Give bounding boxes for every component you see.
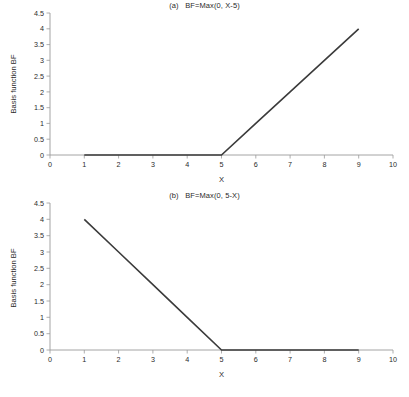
svg-text:1: 1 (82, 355, 86, 364)
chart-b-series-line (84, 219, 358, 350)
svg-text:3: 3 (40, 56, 44, 65)
svg-text:3.5: 3.5 (34, 231, 44, 240)
svg-text:2: 2 (40, 88, 44, 97)
svg-text:0: 0 (48, 355, 52, 364)
svg-text:4: 4 (185, 355, 189, 364)
chart-a-series-line (84, 29, 358, 155)
svg-text:1.5: 1.5 (34, 103, 44, 112)
svg-text:10: 10 (389, 160, 397, 169)
chart-b-plot: 0 0.5 1 1.5 2 2.5 3 3.5 4 4.5 (0, 190, 409, 380)
svg-text:7: 7 (288, 160, 292, 169)
svg-text:10: 10 (389, 355, 397, 364)
svg-text:6: 6 (254, 160, 258, 169)
svg-text:3: 3 (151, 355, 155, 364)
svg-text:3.5: 3.5 (34, 40, 44, 49)
chart-b-x-axis-label: X (219, 370, 224, 379)
svg-text:4: 4 (40, 215, 44, 224)
svg-text:3: 3 (40, 248, 44, 257)
svg-text:8: 8 (322, 355, 326, 364)
chart-b-y-axis-label: Basis function BF (9, 248, 18, 307)
chart-b-y-ticks: 0 0.5 1 1.5 2 2.5 3 3.5 4 4.5 (34, 199, 50, 355)
svg-text:2: 2 (117, 160, 121, 169)
svg-text:4: 4 (185, 160, 189, 169)
chart-a-y-axis-label: Basis function BF (9, 54, 18, 113)
svg-text:0: 0 (40, 151, 44, 160)
chart-a-plot: 0 0.5 1 1.5 2 2.5 3 3.5 4 4.5 (0, 0, 409, 190)
svg-text:5: 5 (220, 160, 224, 169)
svg-text:4.5: 4.5 (34, 9, 44, 18)
svg-text:2: 2 (40, 280, 44, 289)
svg-text:1: 1 (82, 160, 86, 169)
svg-text:4.5: 4.5 (34, 199, 44, 208)
svg-text:5: 5 (220, 355, 224, 364)
svg-text:7: 7 (288, 355, 292, 364)
chart-panel-a: (a) BF=Max(0, X-5) 0 0.5 1 1.5 2 2.5 (0, 0, 409, 190)
svg-text:8: 8 (322, 160, 326, 169)
chart-b-axes (50, 203, 393, 350)
svg-text:6: 6 (254, 355, 258, 364)
svg-text:0.5: 0.5 (34, 329, 44, 338)
svg-text:0: 0 (48, 160, 52, 169)
chart-b-x-ticks: 0 1 2 3 4 5 6 7 8 9 10 (48, 350, 397, 364)
svg-text:2.5: 2.5 (34, 264, 44, 273)
svg-text:1: 1 (40, 313, 44, 322)
svg-text:0.5: 0.5 (34, 135, 44, 144)
svg-text:9: 9 (357, 160, 361, 169)
figure-basis-functions: (a) BF=Max(0, X-5) 0 0.5 1 1.5 2 2.5 (0, 0, 409, 397)
svg-text:3: 3 (151, 160, 155, 169)
chart-a-y-ticks: 0 0.5 1 1.5 2 2.5 3 3.5 4 4.5 (34, 9, 50, 160)
svg-text:1: 1 (40, 119, 44, 128)
svg-text:9: 9 (357, 355, 361, 364)
svg-text:0: 0 (40, 346, 44, 355)
svg-text:2: 2 (117, 355, 121, 364)
chart-a-axes (50, 13, 393, 155)
chart-a-x-axis-label: X (219, 175, 224, 184)
chart-panel-b: (b) BF=Max(0, 5-X) 0 0.5 1 1.5 2 2.5 (0, 190, 409, 380)
chart-a-x-ticks: 0 1 2 3 4 5 6 7 8 9 10 (48, 155, 397, 169)
svg-text:1.5: 1.5 (34, 297, 44, 306)
figure-caption (6, 391, 406, 397)
svg-text:4: 4 (40, 24, 44, 33)
svg-text:2.5: 2.5 (34, 72, 44, 81)
